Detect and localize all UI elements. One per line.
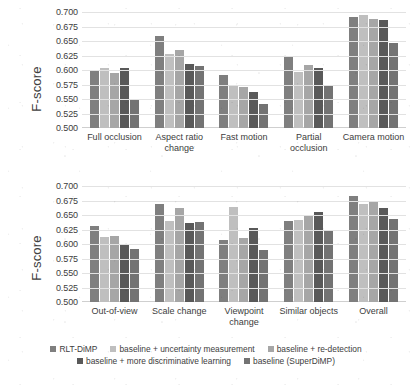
legend-item[interactable]: baseline + more discriminative learning: [77, 356, 231, 366]
bar: [304, 65, 313, 128]
gridline: [82, 259, 406, 260]
legend-row-1: RLT-DiMPbaseline + uncertainty measureme…: [0, 344, 412, 354]
bar: [359, 15, 368, 128]
x-tick-label: Full occlusion: [82, 132, 146, 154]
gridline: [82, 56, 406, 57]
y-tick-label: 0.700: [56, 181, 78, 191]
gridline: [82, 70, 406, 71]
bar: [369, 19, 378, 128]
x-tick-label: Camera motion: [342, 132, 406, 154]
bar: [175, 50, 184, 128]
bar: [100, 237, 109, 302]
x-tick-label: Fast motion: [212, 132, 276, 154]
gridline: [82, 230, 406, 231]
bar: [284, 56, 293, 129]
y-tick-label: 0.650: [56, 210, 78, 220]
x-tick-label: Viewpoint change: [212, 306, 276, 328]
x-axis-labels-bottom: Out-of-viewScale changeViewpoint changeS…: [82, 306, 406, 328]
chart-legend: RLT-DiMPbaseline + uncertainty measureme…: [0, 342, 412, 386]
chart-panel-bottom: F-score 0.7000.6750.6500.6250.6000.5750.…: [0, 178, 412, 338]
gridline: [82, 215, 406, 216]
legend-swatch-icon: [268, 346, 274, 352]
y-tick-label: 0.575: [56, 254, 78, 264]
legend-swatch-icon: [50, 346, 56, 352]
legend-item-label: baseline + more discriminative learning: [86, 356, 231, 366]
plot-area-bottom: [82, 186, 406, 302]
x-tick-label: Partial occlusion: [277, 132, 341, 154]
y-tick-label: 0.550: [56, 94, 78, 104]
bar: [249, 228, 258, 302]
bar: [294, 72, 303, 128]
chart-panel-top: F-score 0.7000.6750.6500.6250.6000.5750.…: [0, 4, 412, 174]
legend-item-label: baseline + uncertainty measurement: [119, 344, 254, 354]
bar: [349, 17, 358, 128]
bar: [165, 221, 174, 302]
bar: [389, 219, 398, 302]
legend-swatch-icon: [110, 346, 116, 352]
bar: [100, 68, 109, 128]
bar: [195, 66, 204, 128]
y-tick-label: 0.500: [56, 123, 78, 133]
bar: [379, 20, 388, 128]
legend-item[interactable]: baseline + re-detection: [268, 344, 362, 354]
y-tick-label: 0.500: [56, 297, 78, 307]
x-tick-label: Aspect ratio change: [147, 132, 211, 154]
x-tick-label: Scale change: [147, 306, 211, 328]
legend-item-label: baseline (SuperDiMP): [253, 356, 335, 366]
gridline: [82, 85, 406, 86]
bar: [130, 249, 139, 302]
gridline: [82, 99, 406, 100]
y-tick-label: 0.675: [56, 22, 78, 32]
y-tick-label: 0.625: [56, 225, 78, 235]
bar: [239, 87, 248, 128]
gridline: [82, 273, 406, 274]
x-axis-labels-top: Full occlusionAspect ratio changeFast mo…: [82, 132, 406, 154]
gridline: [82, 201, 406, 202]
bar: [229, 86, 238, 128]
legend-swatch-icon: [77, 358, 83, 364]
legend-swatch-icon: [244, 358, 250, 364]
bar: [195, 222, 204, 302]
gridline: [82, 288, 406, 289]
legend-item[interactable]: RLT-DiMP: [50, 344, 97, 354]
y-tick-label: 0.700: [56, 7, 78, 17]
figure-two-panel-bar-chart: F-score 0.7000.6750.6500.6250.6000.5750.…: [0, 0, 412, 387]
y-tick-label: 0.625: [56, 51, 78, 61]
bar: [324, 230, 333, 303]
plot-area-top: [82, 12, 406, 128]
y-tick-label: 0.650: [56, 36, 78, 46]
x-tick-label: Overall: [342, 306, 406, 328]
x-tick-label: Out-of-view: [82, 306, 146, 328]
bar: [90, 226, 99, 302]
gridline: [82, 186, 406, 187]
legend-item[interactable]: baseline + uncertainty measurement: [110, 344, 254, 354]
y-tick-label: 0.525: [56, 283, 78, 293]
y-tick-label: 0.600: [56, 65, 78, 75]
bar: [259, 104, 268, 128]
gridline: [82, 41, 406, 42]
bar: [110, 73, 119, 128]
bar: [324, 85, 333, 128]
gridline: [82, 12, 406, 13]
gridline: [82, 244, 406, 245]
bar: [219, 240, 228, 302]
bar: [110, 236, 119, 302]
bar: [349, 196, 358, 302]
gridline: [82, 114, 406, 115]
legend-item-label: RLT-DiMP: [59, 344, 97, 354]
y-tick-label: 0.600: [56, 239, 78, 249]
y-tick-label: 0.550: [56, 268, 78, 278]
y-axis-ticks-bottom: 0.7000.6750.6500.6250.6000.5750.5500.525…: [40, 186, 78, 302]
y-axis-ticks-top: 0.7000.6750.6500.6250.6000.5750.5500.525…: [40, 12, 78, 128]
legend-item[interactable]: baseline (SuperDiMP): [244, 356, 335, 366]
gridline: [82, 27, 406, 28]
bar: [165, 54, 174, 128]
bar: [185, 223, 194, 302]
x-tick-label: Similar objects: [277, 306, 341, 328]
bar: [284, 221, 293, 302]
bar: [249, 92, 258, 128]
bar: [185, 64, 194, 128]
bar: [239, 238, 248, 302]
bar: [294, 220, 303, 302]
legend-item-label: baseline + re-detection: [277, 344, 362, 354]
